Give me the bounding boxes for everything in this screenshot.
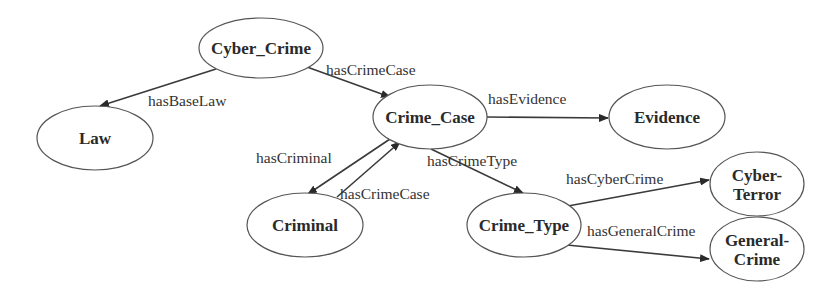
node-cyber-crime[interactable]: Cyber_Crime <box>199 18 323 78</box>
node-cyber-terror[interactable]: Cyber-Terror <box>710 152 804 216</box>
node-law[interactable]: Law <box>37 106 153 170</box>
node-label: Criminal <box>272 216 338 235</box>
edge-label: hasCriminal <box>256 149 332 166</box>
edge-label: hasCyberCrime <box>566 170 663 187</box>
edge-has-crime-type-crime_case-to-crime_type: hasCrimeType <box>427 149 523 193</box>
node-crime-type[interactable]: Crime_Type <box>467 193 581 257</box>
edge-has-cyber-crime-crime_type-to-cyber_terror: hasCyberCrime <box>566 170 709 206</box>
edge-has-crime-case-criminal-to-crime_case: hasCrimeCase <box>337 142 430 202</box>
edge-has-base-law-cyber_crime-to-law: hasBaseLaw <box>100 69 227 109</box>
node-label: Law <box>79 129 112 148</box>
node-label: Cyber_Crime <box>211 39 312 58</box>
nodes-layer: Cyber_CrimeLawCrime_CaseEvidenceCriminal… <box>37 18 804 281</box>
node-crime-case[interactable]: Crime_Case <box>373 85 487 149</box>
node-label: Evidence <box>634 108 701 127</box>
edge-has-general-crime-crime_type-to-general_crime: hasGeneralCrime <box>567 222 709 259</box>
edge-label: hasEvidence <box>488 90 566 107</box>
node-general-crime[interactable]: General-Crime <box>710 217 804 281</box>
node-label: Cyber- <box>732 166 783 185</box>
node-evidence[interactable]: Evidence <box>609 85 725 149</box>
edge-label: hasCrimeType <box>427 152 517 169</box>
edge-label: hasCrimeCase <box>326 61 416 78</box>
edge-has-evidence-crime_case-to-evidence: hasEvidence <box>487 90 608 118</box>
edge-label: hasBaseLaw <box>148 92 227 109</box>
node-label: General- <box>725 231 790 250</box>
edge-arrow <box>487 117 608 118</box>
edge-label: hasGeneralCrime <box>587 222 696 239</box>
node-label: Crime_Type <box>479 216 570 235</box>
node-label: Crime_Case <box>385 108 475 127</box>
ontology-diagram: hasBaseLawhasCrimeCasehasEvidencehasCrim… <box>0 0 837 303</box>
node-label: Terror <box>733 185 782 204</box>
node-criminal[interactable]: Criminal <box>247 193 363 257</box>
edge-label: hasCrimeCase <box>340 185 430 202</box>
node-label: Crime <box>734 250 781 269</box>
edge-arrow <box>567 245 709 259</box>
